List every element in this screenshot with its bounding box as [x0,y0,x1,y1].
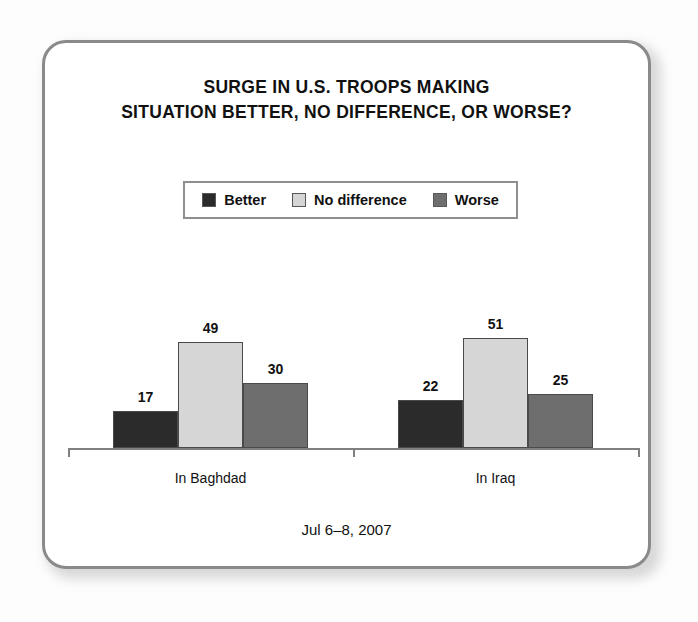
chart-card: SURGE IN U.S. TROOPS MAKING SITUATION BE… [42,40,651,569]
bar-value-label: 49 [176,320,246,336]
category-label-in-baghdad: In Baghdad [111,470,311,486]
bar-value-label: 22 [396,378,466,394]
x-axis-tick [638,448,640,457]
bar-value-label: 51 [461,316,531,332]
bar-worse-in-baghdad[interactable] [243,383,308,448]
x-axis-tick [353,448,355,457]
category-label-in-iraq: In Iraq [396,470,596,486]
bar-worse-in-iraq[interactable] [528,394,593,448]
bar-no-difference-in-baghdad[interactable] [178,342,243,448]
bar-better-in-baghdad[interactable] [113,411,178,448]
bar-value-label: 25 [526,372,596,388]
chart-date-note: Jul 6–8, 2007 [45,521,648,538]
bar-value-label: 17 [111,389,181,405]
bar-no-difference-in-iraq[interactable] [463,338,528,449]
chart-page: SURGE IN U.S. TROOPS MAKING SITUATION BE… [0,0,698,622]
bar-value-label: 30 [241,361,311,377]
plot-area: 174930In Baghdad225125In Iraq [45,43,648,566]
bar-better-in-iraq[interactable] [398,400,463,448]
x-axis-tick [68,448,70,457]
